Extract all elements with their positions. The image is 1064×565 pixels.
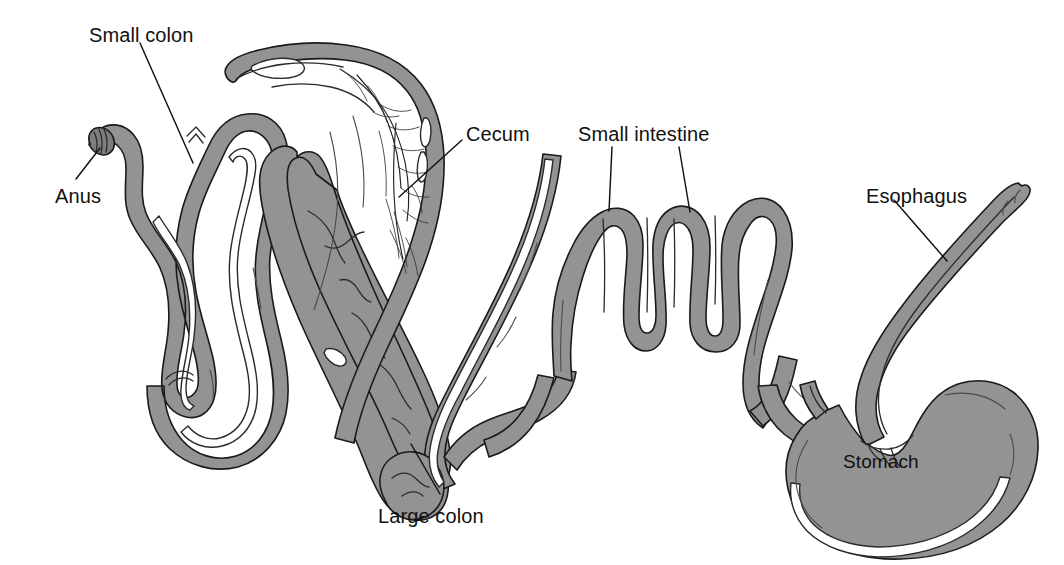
label-large-colon: Large colon <box>378 506 484 526</box>
label-anus: Anus <box>55 186 101 206</box>
digestive-tract-figure: Small colon Anus Cecum Small intestine E… <box>0 0 1064 565</box>
label-cecum: Cecum <box>466 124 530 144</box>
small-intestine-crease-4 <box>715 216 716 304</box>
label-small-intestine: Small intestine <box>578 124 710 144</box>
small-intestine-crease-3 <box>674 219 675 307</box>
cecum-body-slit-2 <box>417 152 427 182</box>
label-stomach: Stomach <box>843 452 919 471</box>
label-esophagus: Esophagus <box>866 186 967 206</box>
digestive-tract-illustration <box>0 0 1064 565</box>
cecum-body-slit-1 <box>421 118 431 147</box>
label-small-colon: Small colon <box>89 25 193 45</box>
small-intestine-crease-2 <box>647 218 648 312</box>
